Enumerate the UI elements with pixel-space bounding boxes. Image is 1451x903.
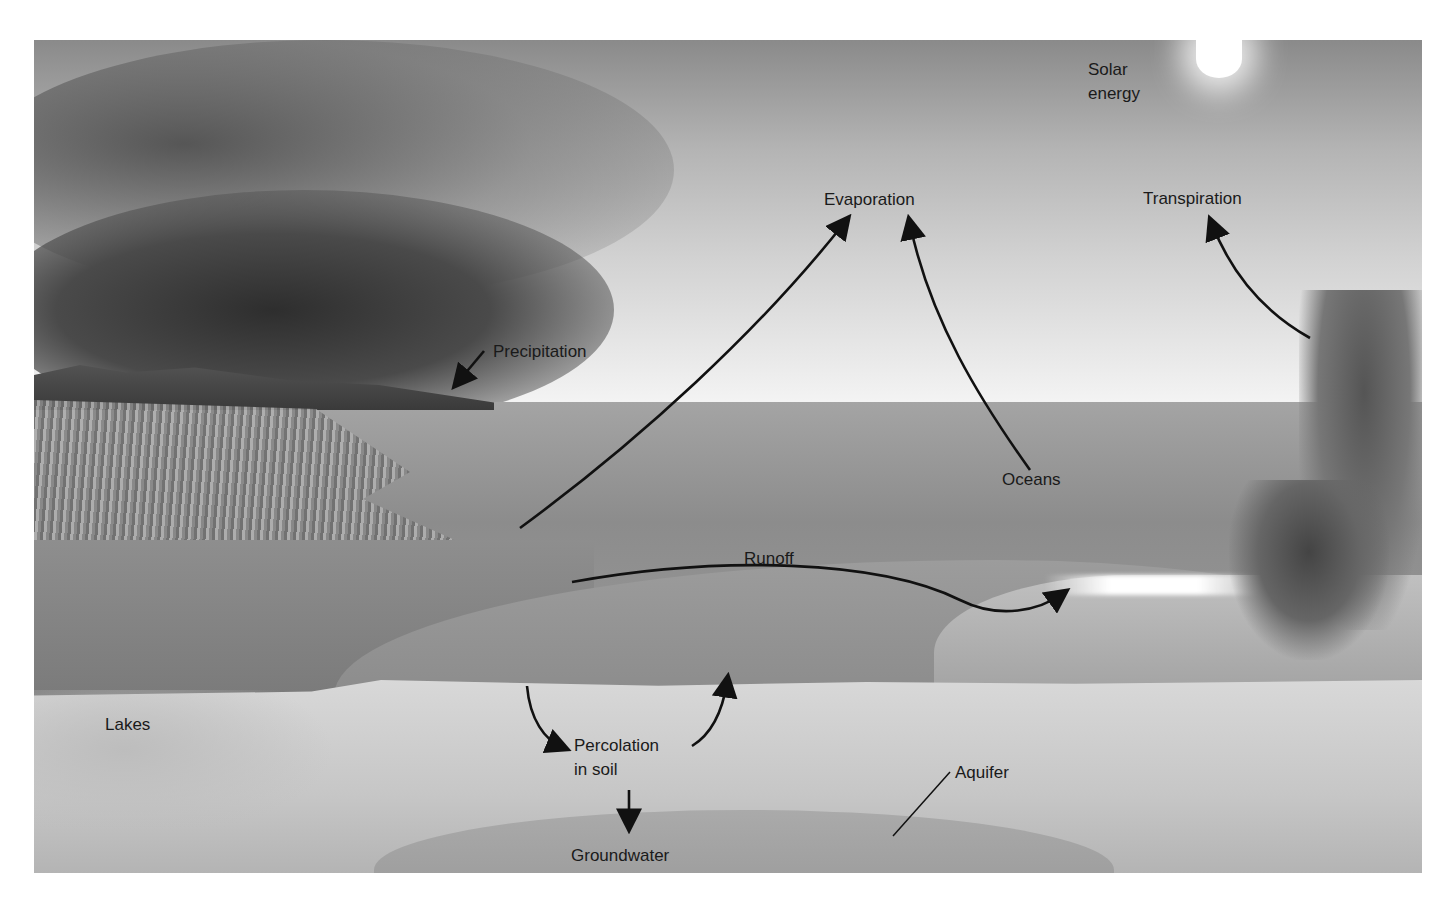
label-evaporation: Evaporation bbox=[824, 188, 915, 212]
label-solar-energy: Solar energy bbox=[1088, 58, 1140, 106]
arrow-percolation-in bbox=[527, 686, 562, 747]
label-groundwater: Groundwater bbox=[571, 844, 669, 868]
arrow-layer bbox=[0, 0, 1451, 903]
arrow-precipitation bbox=[458, 351, 484, 382]
label-runoff: Runoff bbox=[744, 547, 794, 571]
arrow-transpiration bbox=[1212, 224, 1310, 338]
label-percolation: Percolation in soil bbox=[574, 734, 659, 782]
arrow-lake-evaporation bbox=[520, 222, 845, 528]
aquifer-pointer-line bbox=[893, 772, 950, 836]
label-oceans: Oceans bbox=[1002, 468, 1061, 492]
arrow-runoff bbox=[572, 565, 1062, 611]
arrow-percolation-out bbox=[692, 682, 727, 746]
label-aquifer: Aquifer bbox=[955, 761, 1009, 785]
label-lakes: Lakes bbox=[105, 713, 150, 737]
label-precipitation: Precipitation bbox=[493, 340, 587, 364]
label-transpiration: Transpiration bbox=[1143, 187, 1242, 211]
arrow-oceans-evaporation bbox=[910, 224, 1030, 470]
